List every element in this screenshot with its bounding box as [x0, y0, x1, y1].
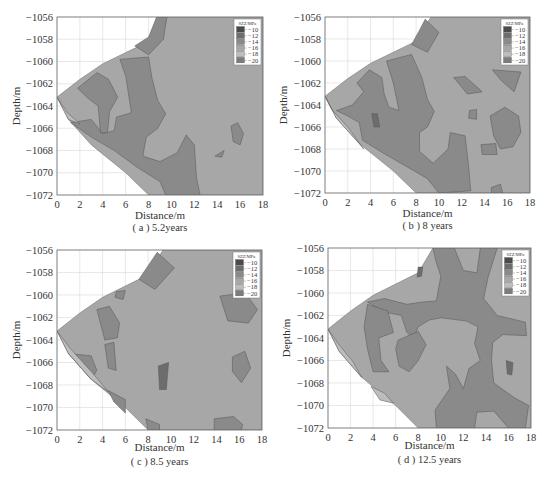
legend-swatch [237, 39, 245, 45]
legend-swatch [237, 51, 245, 57]
legend-swatch [505, 288, 513, 294]
x-axis-label: Distance/m [135, 209, 186, 221]
legend-title: SZZ/MPa [239, 21, 257, 26]
x-tick-label: 18 [257, 434, 268, 445]
legend-title: SZZ/MPa [507, 252, 525, 257]
y-tick-label: −1064 [26, 335, 54, 346]
y-tick-label: −1062 [297, 310, 324, 321]
figure: 024681012141618−1056−1058−1060−1062−1064… [0, 0, 548, 481]
legend-swatch [504, 57, 512, 63]
y-tick-label: −1064 [297, 333, 325, 344]
x-tick-label: 2 [77, 434, 82, 445]
legend-swatch [237, 33, 245, 39]
y-tick-label: −1062 [294, 78, 321, 89]
x-tick-label: 14 [479, 197, 490, 208]
x-tick-label: 0 [325, 432, 330, 443]
y-tick-label: −1062 [26, 78, 53, 89]
y-axis-label: Depth/m [277, 85, 289, 124]
x-tick-label: 18 [526, 432, 537, 443]
x-tick-label: 4 [100, 199, 106, 210]
y-tick-label: −1066 [26, 357, 53, 368]
legend-swatch [236, 284, 244, 290]
contour-region-level-14 [469, 109, 477, 119]
legend-swatch [236, 290, 244, 296]
x-tick-label: 2 [345, 197, 350, 208]
x-tick-label: 2 [77, 199, 82, 210]
y-tick-label: −1072 [294, 188, 321, 199]
y-tick-label: −1058 [294, 34, 321, 45]
legend-label: −20 [248, 57, 258, 64]
legend-swatch [504, 51, 512, 57]
y-tick-label: −1062 [26, 312, 53, 323]
x-tick-label: 2 [348, 432, 353, 443]
legend-swatch [505, 276, 513, 282]
y-axis-label: Depth/m [10, 86, 22, 125]
y-tick-label: −1070 [26, 402, 53, 413]
legend-swatch [504, 39, 512, 45]
y-tick-label: −1058 [26, 34, 53, 45]
legend-label: −20 [516, 288, 526, 295]
y-tick-label: −1056 [294, 12, 321, 23]
y-tick-label: −1066 [297, 355, 324, 366]
y-axis-label: Depth/m [280, 318, 292, 357]
y-tick-label: −1056 [297, 243, 324, 254]
x-axis-label: Distance/m [404, 439, 455, 451]
panel-caption: ( c ) 8.5 years [131, 456, 188, 468]
legend-swatch [505, 264, 513, 270]
x-tick-label: 16 [234, 434, 245, 445]
y-tick-label: −1072 [26, 190, 53, 201]
y-tick-label: −1070 [294, 166, 321, 177]
x-tick-label: 12 [189, 199, 200, 210]
y-tick-label: −1068 [26, 145, 53, 156]
legend: SZZ/MPa−10−12−14−16−18−20 [501, 19, 528, 65]
y-tick-label: −1058 [26, 267, 53, 278]
contour-panel-d: 024681012141618−1056−1058−1060−1062−1064… [280, 243, 536, 467]
legend-title: SZZ/MPa [506, 21, 524, 26]
legend-swatch [505, 258, 513, 264]
legend-swatch [236, 278, 244, 284]
y-tick-label: −1072 [297, 423, 324, 434]
y-tick-label: −1070 [297, 400, 324, 411]
x-tick-label: 0 [54, 434, 59, 445]
legend: SZZ/MPa−10−12−14−16−18−20 [234, 19, 261, 65]
legend-swatch [237, 57, 245, 63]
legend-swatch [236, 266, 244, 272]
legend-title: SZZ/MPa [238, 254, 256, 259]
legend-swatch [505, 270, 513, 276]
x-tick-label: 18 [525, 197, 536, 208]
y-tick-label: −1056 [26, 245, 53, 256]
x-tick-label: 16 [235, 199, 246, 210]
x-tick-label: 4 [370, 432, 376, 443]
y-tick-label: −1064 [26, 101, 54, 112]
legend-label: −20 [247, 290, 257, 297]
x-tick-label: 12 [456, 197, 467, 208]
x-tick-label: 14 [481, 432, 492, 443]
x-tick-label: 16 [502, 197, 513, 208]
legend-swatch [236, 272, 244, 278]
x-tick-label: 14 [211, 434, 222, 445]
contour-region-level-12 [417, 267, 423, 277]
legend-swatch [504, 45, 512, 51]
y-tick-label: −1060 [297, 288, 324, 299]
y-tick-label: −1060 [26, 56, 53, 67]
x-axis-label: Distance/m [134, 441, 185, 453]
x-tick-label: 14 [212, 199, 223, 210]
y-tick-label: −1066 [26, 123, 53, 134]
contour-panel-b: 024681012141618−1056−1058−1060−1062−1064… [277, 12, 535, 233]
x-axis-label: Distance/m [402, 207, 453, 219]
x-tick-label: 12 [458, 432, 469, 443]
x-tick-label: 12 [188, 434, 199, 445]
x-tick-label: 6 [123, 199, 128, 210]
y-tick-label: −1058 [297, 265, 324, 276]
legend-swatch [236, 260, 244, 266]
y-axis-label: Depth/m [10, 320, 22, 359]
panel-caption: ( b ) 8 years [402, 220, 452, 232]
x-tick-label: 0 [54, 199, 59, 210]
x-tick-label: 6 [393, 432, 398, 443]
legend-swatch [505, 282, 513, 288]
y-tick-label: −1064 [294, 100, 322, 111]
contour-region-level-14 [481, 144, 497, 155]
x-tick-label: 0 [322, 197, 327, 208]
panel-caption: ( d ) 12.5 years [398, 454, 461, 466]
y-tick-label: −1068 [26, 380, 53, 391]
